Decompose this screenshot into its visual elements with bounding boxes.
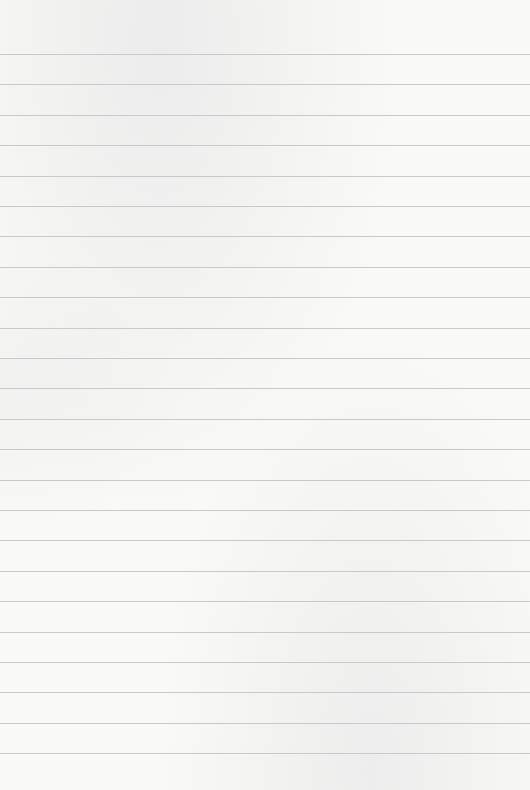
ruled-line [0, 632, 530, 633]
ruled-line [0, 328, 530, 329]
ruled-line [0, 145, 530, 146]
ruled-line [0, 480, 530, 481]
ruled-line [0, 206, 530, 207]
ruled-line [0, 267, 530, 268]
ruled-line [0, 753, 530, 754]
ruled-line [0, 449, 530, 450]
ruled-line [0, 297, 530, 298]
ruled-line [0, 601, 530, 602]
ruled-line [0, 571, 530, 572]
ruled-line [0, 419, 530, 420]
ruled-line [0, 510, 530, 511]
ruled-line [0, 54, 530, 55]
ruled-line [0, 358, 530, 359]
ruled-line [0, 115, 530, 116]
ruled-line [0, 176, 530, 177]
ruled-line [0, 540, 530, 541]
ruled-line [0, 84, 530, 85]
ruled-paper-sheet [0, 0, 530, 790]
ruled-line [0, 388, 530, 389]
ruled-line [0, 236, 530, 237]
ruled-line [0, 692, 530, 693]
ruled-line [0, 662, 530, 663]
ruled-line [0, 723, 530, 724]
